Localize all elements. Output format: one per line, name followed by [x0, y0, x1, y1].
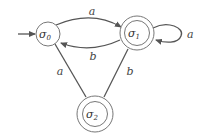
transition-s0-s1 [56, 18, 121, 27]
transition-s1-s2 [104, 49, 128, 97]
transition-s1-s0 [61, 40, 120, 48]
transition-s1-s1 [153, 25, 182, 43]
state-s2: σ2 [77, 96, 113, 132]
transition-label-s0-s1: a [89, 5, 96, 18]
transition-label-s0-s2: a [57, 65, 64, 78]
transition-label-s1-s1: a [187, 28, 194, 41]
state-s1: σ1 [120, 16, 154, 50]
transition-label-s1-s0: b [89, 50, 96, 63]
state-s0: σ0 [36, 22, 60, 46]
transition-label-s1-s2: b [126, 65, 133, 78]
state-diagram: a b a a b σ0 σ1 σ2 [0, 0, 200, 139]
